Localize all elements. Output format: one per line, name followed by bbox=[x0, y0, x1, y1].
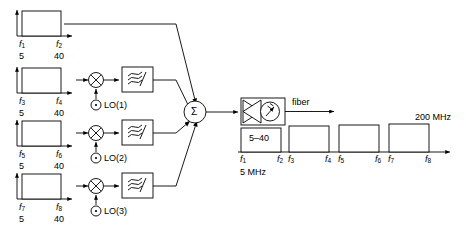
input-spectrum-ch1 bbox=[17, 10, 72, 36]
output-first-band-label: 5–40 bbox=[249, 134, 269, 143]
bandpass-filter-ch2 bbox=[122, 67, 153, 92]
lo2-source bbox=[91, 142, 101, 163]
input-spectrum-ch3 bbox=[17, 120, 72, 146]
laser-transmitter-icon bbox=[241, 98, 285, 125]
ch4-to-summer-path bbox=[153, 121, 197, 186]
bandpass-filter-ch3 bbox=[122, 120, 153, 145]
input-spectrum-ch2 bbox=[17, 67, 72, 93]
lo3-source bbox=[91, 195, 101, 216]
bandpass-filter-ch4 bbox=[122, 173, 153, 198]
output-tick-f2: f2 bbox=[277, 155, 283, 165]
ch4-f-high-label: f8 bbox=[56, 203, 62, 213]
ch1-low-value: 5 bbox=[19, 52, 24, 61]
ch3-low-value: 5 bbox=[19, 162, 24, 171]
output-band-2 bbox=[289, 126, 329, 152]
output-tick-f6: f6 bbox=[375, 155, 381, 165]
output-band-4 bbox=[389, 124, 429, 152]
ch3-f-high-label: f6 bbox=[56, 150, 62, 160]
lo3-label: LO(3) bbox=[104, 207, 127, 216]
ch3-high-value: 40 bbox=[54, 162, 64, 171]
ch1-f-high-label: f2 bbox=[56, 40, 62, 50]
ch1-high-value: 40 bbox=[54, 52, 64, 61]
output-tick-f5: f5 bbox=[338, 155, 344, 165]
output-tick-f4: f4 bbox=[325, 155, 331, 165]
output-tick-f8: f8 bbox=[425, 155, 431, 165]
output-tick-f1: f1 bbox=[240, 155, 246, 165]
output-end-label: 200 MHz bbox=[415, 113, 451, 122]
lo2-label: LO(2) bbox=[104, 154, 127, 163]
ch3-f-low-label: f5 bbox=[19, 150, 25, 160]
summer-sigma-symbol: Σ bbox=[191, 107, 197, 117]
fdm-transmitter-diagram bbox=[0, 0, 466, 230]
output-tick-f3: f3 bbox=[288, 155, 294, 165]
ch2-f-high-label: f4 bbox=[56, 97, 62, 107]
mixer-ch4 bbox=[89, 179, 104, 194]
ch4-high-value: 40 bbox=[54, 215, 64, 224]
ch4-low-value: 5 bbox=[19, 215, 24, 224]
output-band-3 bbox=[339, 125, 379, 152]
lo1-source bbox=[91, 89, 101, 110]
ch2-low-value: 5 bbox=[19, 109, 24, 118]
ch2-f-low-label: f3 bbox=[19, 97, 25, 107]
output-tick-f7: f7 bbox=[388, 155, 394, 165]
mixer-ch2 bbox=[89, 73, 104, 88]
lo1-label: LO(1) bbox=[104, 101, 127, 110]
input-spectrum-ch4 bbox=[17, 173, 72, 199]
ch3-to-summer-path bbox=[153, 121, 190, 133]
ch4-f-low-label: f7 bbox=[19, 203, 25, 213]
mixer-ch3 bbox=[89, 126, 104, 141]
output-start-label: 5 MHz bbox=[240, 168, 266, 177]
ch1-f-low-label: f1 bbox=[19, 40, 25, 50]
fiber-label: fiber bbox=[292, 98, 310, 107]
ch2-high-value: 40 bbox=[54, 109, 64, 118]
